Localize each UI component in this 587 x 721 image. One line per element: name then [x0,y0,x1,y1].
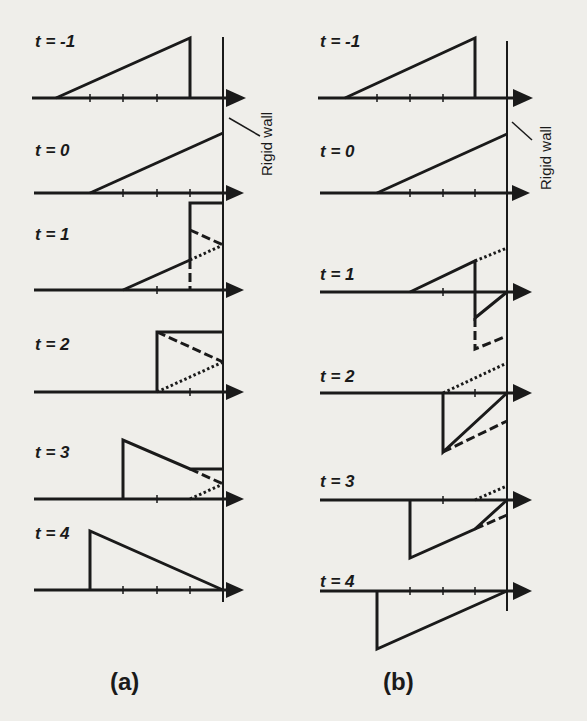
arrow-right-icon [513,283,532,301]
time-label: t = 3 [35,443,70,462]
arrow-right-icon [226,491,244,507]
time-label: t = 4 [320,572,355,591]
rigid-wall-label: Rigid wall [537,126,554,190]
wall-label-leader [229,118,260,136]
pulse-t3 [123,440,223,499]
time-label: t = -1 [35,32,75,51]
time-label: t = 3 [320,472,355,491]
pulse-t4 [90,531,223,590]
arrow-right-icon [226,89,246,107]
time-label: t = 1 [35,225,70,244]
time-label: t = -1 [320,32,360,51]
pulse-t3 [410,486,507,558]
pulse-t4 [377,591,507,649]
arrow-right-icon [513,89,533,107]
panel-a-caption: (a) [110,668,139,695]
time-label: t = 1 [320,265,355,284]
axes-b [318,89,533,600]
pulse-t0 [377,134,507,193]
axis-row-1 [318,89,533,107]
rigid-wall-label: Rigid wall [258,112,275,176]
time-label: t = 0 [320,142,355,161]
arrow-right-icon [226,582,244,598]
pulse-t0 [90,133,223,193]
pulse-t-minus1 [345,38,475,98]
panel-a: Rigid wall [32,32,275,695]
panel-b: Rigid wall [318,32,554,695]
arrow-right-icon [226,384,244,400]
axis-row-1 [32,89,246,107]
arrow-right-icon [226,282,244,298]
arrow-right-icon [513,384,532,402]
arrow-right-icon [226,185,244,201]
arrow-right-icon [513,582,532,600]
axis-row-4 [34,384,244,400]
axis-row-5 [34,491,244,507]
time-label: t = 2 [35,335,70,354]
pulse-t-minus1 [56,38,190,98]
time-label: t = 0 [35,141,70,160]
panel-b-caption: (b) [383,668,414,695]
time-label: t = 4 [35,524,70,543]
axis-row-2 [320,185,530,201]
pulse-t2 [443,363,507,452]
wave-reflection-diagram: Rigid wall [0,0,587,721]
arrow-right-icon [512,185,530,201]
axis-row-2 [34,185,244,201]
pulse-t1 [410,248,507,349]
pulse-t1 [123,203,223,290]
time-label: t = 2 [320,367,355,386]
pulse-t2 [157,332,223,392]
wall-label-leader [512,122,532,140]
arrow-right-icon [513,491,532,509]
